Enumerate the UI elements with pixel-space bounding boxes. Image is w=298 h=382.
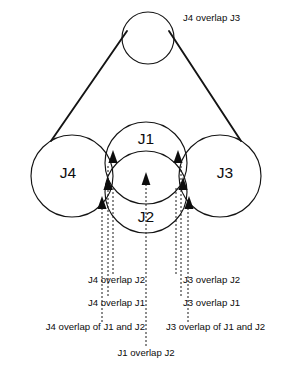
callout-j3-overlap-j1: J3 overlap J1 bbox=[183, 297, 240, 308]
top-circle bbox=[122, 12, 174, 64]
arrow-j1-overlap-j2 bbox=[142, 172, 151, 185]
right-tangent-line bbox=[169, 31, 241, 141]
j3-circle-label: J3 bbox=[217, 164, 233, 181]
arrow-j3-overlap-j2 bbox=[173, 150, 182, 163]
arrow-j4-overlap-j2 bbox=[108, 150, 117, 163]
callout-j4-overlap-of-j1-and-j2: J4 overlap of J1 and J2 bbox=[46, 321, 145, 332]
top-callout-label: J4 overlap J3 bbox=[183, 12, 240, 23]
callout-j3-overlap-j2: J3 overlap J2 bbox=[183, 274, 240, 285]
callout-j1-overlap-j2: J1 overlap J2 bbox=[117, 347, 174, 358]
venn-overlap-diagram: J4 J3 J1 J2 J4 overlap J3 J4 overlap J2 … bbox=[0, 0, 298, 382]
j1-circle-label: J1 bbox=[138, 130, 154, 147]
j4-circle-label: J4 bbox=[60, 164, 77, 181]
arrow-j4-overlap-j1 bbox=[103, 177, 112, 190]
left-tangent-line bbox=[51, 31, 127, 141]
diagram-canvas: J4 J3 J1 J2 J4 overlap J3 J4 overlap J2 … bbox=[0, 0, 298, 382]
callout-j3-overlap-of-j1-and-j2: J3 overlap of J1 and J2 bbox=[166, 321, 265, 332]
callout-j4-overlap-j2: J4 overlap J2 bbox=[88, 274, 145, 285]
callout-j4-overlap-j1: J4 overlap J1 bbox=[88, 297, 145, 308]
